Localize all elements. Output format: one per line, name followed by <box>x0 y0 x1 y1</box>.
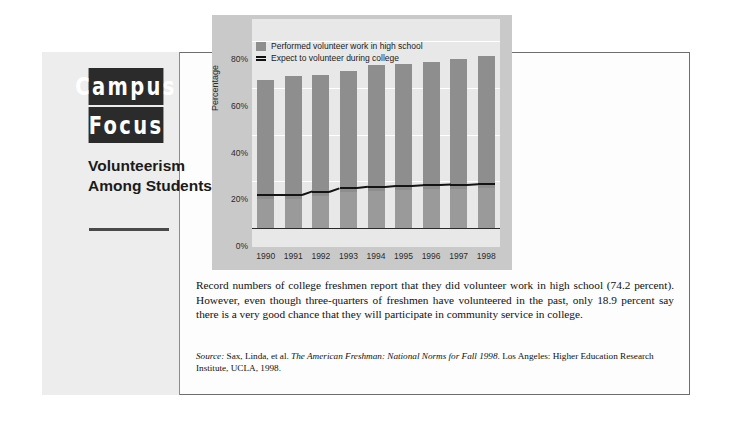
bar-lower-band <box>285 199 302 229</box>
source-note: Source: Sax, Linda, et al. The American … <box>196 351 674 374</box>
legend-item-bars: Performed volunteer work in high school <box>256 40 496 52</box>
y-tick-label: 20% <box>208 194 248 204</box>
axis-baseline <box>252 228 500 229</box>
x-tick-label: 1996 <box>418 251 444 261</box>
bar-lower-band <box>478 188 495 229</box>
bar-lower-band <box>368 191 385 229</box>
x-tick-label: 1993 <box>335 251 361 261</box>
bar-lower-band <box>423 189 440 229</box>
source-title: The American Freshman: National Norms fo… <box>291 351 497 361</box>
bar-lower-band <box>340 192 357 229</box>
bar-lower-band <box>257 199 274 229</box>
line-connector <box>440 184 451 186</box>
x-tick-label: 1995 <box>391 251 417 261</box>
source-authors: Sax, Linda, et al. <box>224 351 291 361</box>
line-connector <box>357 186 368 189</box>
bar-lower-band <box>450 189 467 229</box>
x-tick-label: 1998 <box>473 251 499 261</box>
logo-campus: Campus <box>89 68 164 105</box>
legend-item-line: Expect to volunteer during college <box>256 52 496 64</box>
line-marker <box>368 186 385 188</box>
line-marker <box>395 185 412 187</box>
title-rule <box>89 228 169 231</box>
bar-lower-band <box>312 196 329 229</box>
line-marker <box>257 194 274 196</box>
line-connector <box>274 194 285 196</box>
masthead-sidebar: Campus Focus Volunteerism Among Students <box>42 52 180 395</box>
x-tick-label: 1990 <box>253 251 279 261</box>
bar-lower-band <box>395 190 412 229</box>
line-marker <box>340 187 357 189</box>
body-paragraph: Record numbers of college freshmen repor… <box>196 278 674 322</box>
y-axis-label: Percentage <box>210 65 220 111</box>
line-connector <box>384 185 395 188</box>
y-tick-label: 80% <box>208 54 248 64</box>
line-connector <box>329 187 340 193</box>
line-marker <box>423 184 440 186</box>
legend-label-2: Expect to volunteer during college <box>271 52 399 64</box>
x-tick-label: 1992 <box>308 251 334 261</box>
chart-card: Performed volunteer work in high school … <box>212 15 512 270</box>
page-title: Volunteerism Among Students <box>88 156 216 195</box>
y-tick-label: 0% <box>208 241 248 251</box>
y-tick-label: 40% <box>208 148 248 158</box>
line-connector <box>412 184 423 187</box>
line-connector <box>467 183 478 186</box>
line-marker <box>312 191 329 193</box>
logo-focus: Focus <box>89 107 164 143</box>
x-tick-label: 1994 <box>363 251 389 261</box>
line-marker <box>450 184 467 186</box>
legend-line-icon <box>256 54 266 63</box>
legend-label-1: Performed volunteer work in high school <box>271 40 423 52</box>
line-marker <box>285 194 302 196</box>
line-marker <box>478 183 495 185</box>
x-tick-label: 1991 <box>280 251 306 261</box>
chart-legend: Performed volunteer work in high school … <box>256 40 496 64</box>
source-label: Source: <box>196 351 224 361</box>
line-connector <box>301 191 312 197</box>
x-tick-label: 1997 <box>446 251 472 261</box>
legend-swatch-icon <box>256 42 266 51</box>
